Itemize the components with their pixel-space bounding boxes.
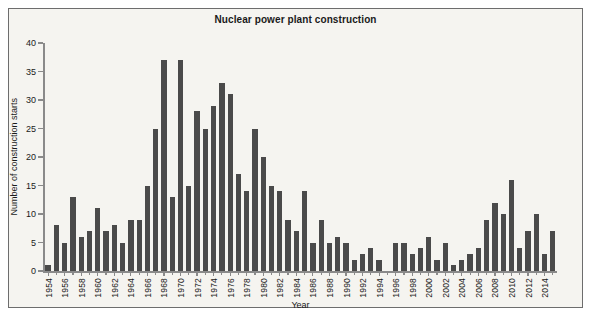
- x-axis-tick: [105, 271, 106, 275]
- bar: [434, 260, 439, 271]
- y-axis-tick: [38, 99, 43, 101]
- x-axis-tick-label: 1984: [292, 278, 302, 298]
- x-axis-tick-label: 1968: [159, 278, 169, 298]
- bar: [443, 243, 448, 272]
- x-axis-tick: [180, 271, 181, 276]
- x-axis-tick: [552, 271, 553, 275]
- bar: [269, 186, 274, 272]
- x-axis-tick: [287, 271, 288, 275]
- x-axis-tick: [254, 271, 255, 275]
- x-axis-tick: [304, 271, 305, 275]
- y-axis-tick-label: 40: [26, 38, 36, 48]
- x-axis-tick: [312, 271, 313, 276]
- y-axis-tick-label: 0: [31, 266, 36, 276]
- x-axis-tick-label: 1982: [275, 278, 285, 298]
- x-axis-tick: [321, 271, 322, 275]
- x-axis-tick: [354, 271, 355, 275]
- x-axis-tick: [122, 271, 123, 275]
- bar: [426, 237, 431, 271]
- bar: [467, 254, 472, 271]
- x-axis-tick: [147, 271, 148, 276]
- x-axis-tick: [48, 271, 49, 276]
- x-axis-tick: [461, 271, 462, 276]
- bar: [410, 254, 415, 271]
- x-axis-tick: [296, 271, 297, 276]
- x-axis-tick: [370, 271, 371, 275]
- x-axis-tick: [527, 271, 528, 276]
- bar: [401, 243, 406, 272]
- x-axis-tick: [238, 271, 239, 275]
- x-axis-tick-label: 1966: [143, 278, 153, 298]
- x-axis-tick: [536, 271, 537, 275]
- bar: [492, 203, 497, 271]
- y-axis-tick-label: 35: [26, 67, 36, 77]
- x-axis-tick: [503, 271, 504, 275]
- x-axis-tick-label: 1994: [375, 278, 385, 298]
- bar: [236, 174, 241, 271]
- x-axis-tick: [412, 271, 413, 276]
- y-axis-tick: [38, 71, 43, 73]
- x-axis-tick-label: 1960: [93, 278, 103, 298]
- y-axis-tick: [38, 270, 43, 272]
- bar: [277, 191, 282, 271]
- x-axis-tick-label: 1962: [110, 278, 120, 298]
- bar: [542, 254, 547, 271]
- bar: [525, 231, 530, 271]
- bar: [70, 197, 75, 271]
- x-axis-tick: [188, 271, 189, 275]
- x-axis-tick: [230, 271, 231, 276]
- x-axis-tick-label: 2012: [524, 278, 534, 298]
- x-axis-tick: [519, 271, 520, 275]
- bar: [343, 243, 348, 272]
- bar: [252, 129, 257, 272]
- x-axis-tick: [130, 271, 131, 276]
- y-axis-tick: [38, 156, 43, 158]
- x-axis-tick-label: 1958: [77, 278, 87, 298]
- x-axis-tick: [445, 271, 446, 276]
- x-axis-line: [43, 271, 557, 273]
- x-axis-tick-label: 1970: [176, 278, 186, 298]
- x-axis-tick-label: 1954: [44, 278, 54, 298]
- x-axis-tick-label: 1978: [242, 278, 252, 298]
- x-axis-tick-label: 2004: [457, 278, 467, 298]
- x-axis-tick-label: 1996: [391, 278, 401, 298]
- bar: [517, 248, 522, 271]
- bar: [228, 94, 233, 271]
- bar: [87, 231, 92, 271]
- x-axis-tick: [64, 271, 65, 276]
- bar: [95, 208, 100, 271]
- bar: [203, 129, 208, 272]
- bar: [211, 106, 216, 271]
- x-axis-tick: [271, 271, 272, 275]
- x-axis-tick: [428, 271, 429, 276]
- y-axis-tick-label: 20: [26, 152, 36, 162]
- bar: [62, 243, 67, 272]
- plot-area: [44, 43, 557, 271]
- y-axis-tick: [38, 42, 43, 44]
- y-axis-tick-label: 10: [26, 209, 36, 219]
- y-axis-tick: [38, 185, 43, 187]
- y-axis-tick: [38, 213, 43, 215]
- x-axis-tick-label: 1974: [209, 278, 219, 298]
- x-axis-tick-label: 1986: [308, 278, 318, 298]
- bar: [161, 60, 166, 271]
- bar: [352, 260, 357, 271]
- bar: [128, 220, 133, 271]
- x-axis-tick: [172, 271, 173, 275]
- x-axis-tick-label: 1998: [408, 278, 418, 298]
- x-axis-tick: [81, 271, 82, 276]
- x-axis-tick-label: 1972: [193, 278, 203, 298]
- x-axis-tick: [221, 271, 222, 275]
- x-axis-tick: [486, 271, 487, 275]
- x-axis-tick: [337, 271, 338, 275]
- x-axis-tick: [89, 271, 90, 275]
- bar: [170, 197, 175, 271]
- x-axis-tick: [379, 271, 380, 276]
- x-axis-tick: [329, 271, 330, 276]
- bar: [327, 243, 332, 272]
- x-axis-tick-label: 1976: [226, 278, 236, 298]
- x-axis-tick-label: 2010: [507, 278, 517, 298]
- x-axis-tick: [395, 271, 396, 276]
- y-axis-tick-label: 5: [31, 238, 36, 248]
- x-axis-tick: [453, 271, 454, 275]
